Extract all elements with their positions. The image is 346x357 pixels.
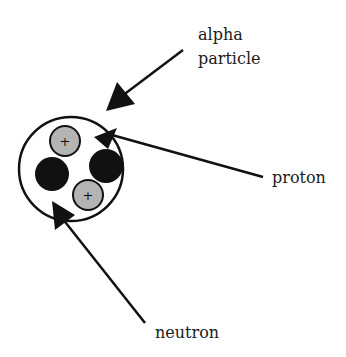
plus-icon: + [60,134,71,149]
proton-label: proton [272,168,326,187]
neutron-arrow [52,201,145,323]
plus-icon: + [83,188,94,203]
alpha-particle-diagram: + + alpha particle proton neutron [0,0,346,357]
neutron-label: neutron [155,323,219,342]
neutron-left [35,157,69,191]
neutron-right [89,149,123,183]
alpha-arrow [106,50,183,111]
arrowhead-icon [106,82,135,111]
proton-bottom: + [73,180,103,210]
alpha-label-line2: particle [198,49,261,68]
proton-top: + [50,126,80,156]
alpha-label-line1: alpha [198,25,243,44]
